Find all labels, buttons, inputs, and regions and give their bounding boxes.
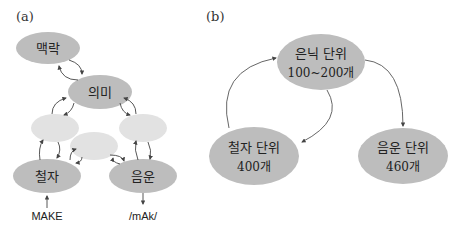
node-orthography-units: [209, 127, 299, 185]
diagram-svg: 맥락 의미 철자 음운: [0, 0, 463, 232]
hidden-units-title: 은닉 단위: [295, 46, 347, 61]
arrow-context-to-meaning: [69, 60, 82, 74]
panel-b: 은닉 단위 100~200개 철자 단위 400개 음운 단위 460개: [209, 34, 448, 185]
diagram-canvas: (a) (b) 맥락 의미 철자 음운: [0, 0, 463, 232]
panel-a: 맥락 의미 철자 음운: [13, 32, 177, 222]
hidden-units-count: 100~200개: [288, 66, 355, 80]
arrow-hm-to-phon: [110, 155, 124, 161]
node-hidden-right: [119, 114, 167, 142]
arrow-hidden-to-phon: [365, 60, 403, 126]
arrow-meaning-to-hl: [64, 103, 74, 115]
arrow-hl-to-orth: [57, 142, 60, 158]
node-phonology-label: 음운: [131, 169, 155, 184]
orthography-units-title: 철자 단위: [228, 140, 280, 155]
arrow-hr-to-phon: [148, 142, 151, 159]
node-hidden-units: [277, 34, 365, 90]
node-context-label: 맥락: [36, 41, 60, 56]
node-meaning-label: 의미: [88, 85, 112, 100]
node-phonology-units: [358, 128, 448, 184]
arrow-hl-to-meaning: [52, 98, 66, 114]
orthography-units-count: 400개: [237, 160, 271, 174]
arrow-orth-to-hidden: [226, 58, 276, 128]
arrow-hidden-to-orth: [302, 90, 332, 142]
phonology-units-title: 음운 단위: [377, 140, 429, 155]
node-hidden-middle: [70, 132, 118, 160]
arrow-phon-to-hm: [113, 158, 120, 164]
input-label: MAKE: [31, 210, 62, 222]
arrow-meaning-to-hr: [120, 103, 130, 115]
arrow-phon-to-hr: [135, 141, 138, 160]
output-label: /mAk/: [129, 210, 158, 222]
arrow-hm-to-orth: [76, 157, 82, 163]
arrow-meaning-to-context: [59, 66, 78, 80]
arrow-orth-to-hl: [39, 140, 43, 160]
node-hidden-left: [31, 114, 79, 142]
phonology-units-count: 460개: [386, 160, 420, 174]
node-orthography-label: 철자: [35, 169, 59, 184]
